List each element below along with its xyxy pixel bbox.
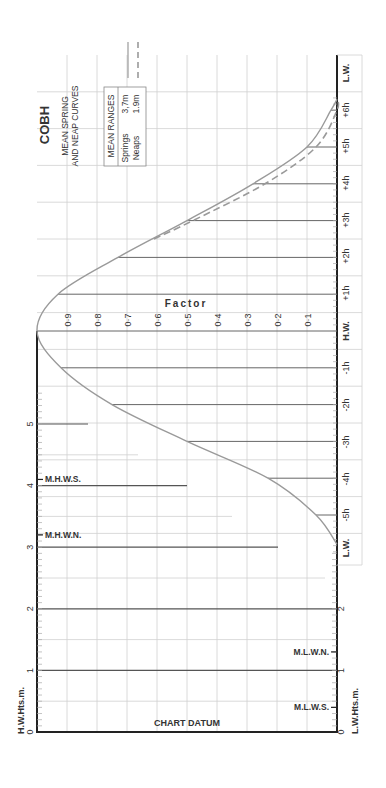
mlwn-label: M.L.W.N. [294,647,329,657]
hw-height-tick-label: 4 [25,483,35,488]
chart-subtitle-line-2: AND NEAP CURVES [70,85,80,166]
time-tick-label: -1h [341,361,351,374]
legend-springs-value: 3,7m [120,95,130,114]
legend-header: MEAN RANGES [106,94,116,157]
time-tick-label: +4h [341,175,351,190]
chart-title: COBH [37,106,52,144]
factor-tick-label: 0·5 [183,313,193,326]
lw-height-tick-label: 0 [336,729,346,734]
mhws-label: M.H.W.S. [45,474,81,484]
lw-height-tick-label: 2 [336,606,346,611]
time-tick-label: -4h [341,472,351,485]
factor-tick-label: 0·9 [63,313,73,326]
hw-height-tick-label: 3 [25,545,35,550]
lw-height-tick-label: 1 [336,668,346,673]
hw-height-tick-label: 1 [25,668,35,673]
chart-datum-label: CHART DATUM [154,718,220,728]
time-tick-label: +1h [341,285,351,300]
time-tick-label: -2h [341,398,351,411]
time-tick-label: +6h [341,102,351,117]
neap-curve [154,99,339,239]
factor-tick-label: 0·7 [123,313,133,326]
time-tick-label: L.W. [341,539,351,558]
factor-tick-label: 0·6 [153,313,163,326]
lw-height-axis-title: L.W.Hts.m. [350,688,360,734]
mhwn-label: M.H.W.N. [45,530,81,540]
factor-axis-label: Factor [165,298,208,309]
hw-height-tick-label: 0 [25,729,35,734]
time-tick-label: L.W. [341,64,351,83]
time-tick-label: -5h [341,508,351,521]
time-tick-label: +5h [341,138,351,153]
legend-springs-name: Springs [120,134,130,163]
legend-neaps-value: 1.9m [131,95,141,114]
factor-tick-label: 0·4 [213,313,223,326]
hw-height-tick-label: 2 [25,606,35,611]
mlws-label: M.L.W.S. [294,702,329,712]
tidal-curve-chart: 0·10·20·30·40·50·60·70·80·9FactorL.W.-5h… [0,0,386,788]
time-tick-label: -3h [341,435,351,448]
time-tick-label: +2h [341,248,351,263]
hw-height-tick-label: 5 [25,421,35,426]
factor-tick-label: 0·2 [273,313,283,326]
hw-height-axis-title: H.W.Hts.m. [16,687,26,734]
factor-tick-label: 0·1 [303,313,313,326]
chart-subtitle-line-1: MEAN SPRING [60,96,70,156]
legend-neaps-name: Neaps [131,136,141,161]
factor-tick-label: 0·3 [243,313,253,326]
time-tick-label: H.W. [341,321,351,341]
time-tick-label: +3h [341,212,351,227]
chart-svg: 0·10·20·30·40·50·60·70·80·9FactorL.W.-5h… [0,0,386,788]
factor-tick-label: 0·8 [93,313,103,326]
